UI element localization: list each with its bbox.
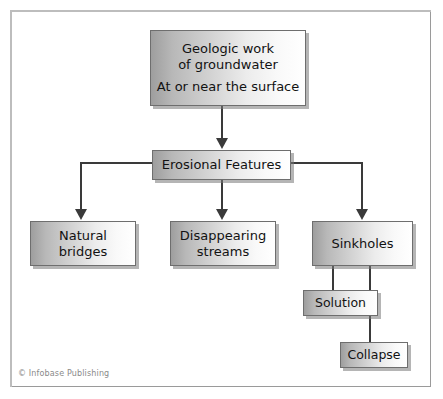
node-geologic-work-of-groundwater: Geologic work of groundwater At or near …	[150, 30, 306, 106]
node-natural-bridges: Natural bridges	[30, 221, 136, 266]
node-solution-label: Solution	[308, 295, 373, 310]
node-collapse: Collapse	[340, 342, 408, 368]
node-erosional-features-label: Erosional Features	[157, 157, 286, 173]
arrowhead-natural-bridges	[75, 209, 87, 220]
node-disappearing-streams-line-1: Disappearing	[175, 228, 271, 244]
connector-sinkholes-to-solution	[332, 266, 334, 291]
node-sinkholes-label: Sinkholes	[317, 236, 408, 252]
node-natural-bridges-line-2: bridges	[35, 244, 131, 260]
connector-erosional-to-disappearing-streams	[221, 180, 223, 210]
connector-root-to-erosional	[221, 106, 223, 139]
connector-erosional-bus-left	[80, 162, 153, 164]
connector-erosional-bus-right	[290, 162, 363, 164]
node-disappearing-streams: Disappearing streams	[170, 221, 276, 266]
connector-erosional-to-sinkholes	[361, 162, 363, 210]
node-disappearing-streams-line-2: streams	[175, 244, 271, 260]
node-root-line-2: of groundwater	[155, 57, 301, 73]
node-sinkholes: Sinkholes	[312, 221, 413, 266]
node-solution: Solution	[303, 290, 378, 316]
arrowhead-sinkholes	[356, 209, 368, 220]
flowchart-figure: Geologic work of groundwater At or near …	[0, 0, 443, 399]
arrowhead-disappearing-streams	[216, 209, 228, 220]
node-natural-bridges-line-1: Natural	[35, 228, 131, 244]
node-root-line-spacer	[155, 72, 301, 79]
arrowhead-root-to-erosional	[216, 138, 228, 149]
node-root-line-1: Geologic work	[155, 41, 301, 57]
node-erosional-features: Erosional Features	[152, 150, 291, 180]
publisher-credit: © Infobase Publishing	[18, 369, 109, 378]
node-collapse-label: Collapse	[345, 347, 403, 362]
connector-erosional-to-natural-bridges	[80, 162, 82, 210]
node-root-line-3: At or near the surface	[155, 79, 301, 95]
